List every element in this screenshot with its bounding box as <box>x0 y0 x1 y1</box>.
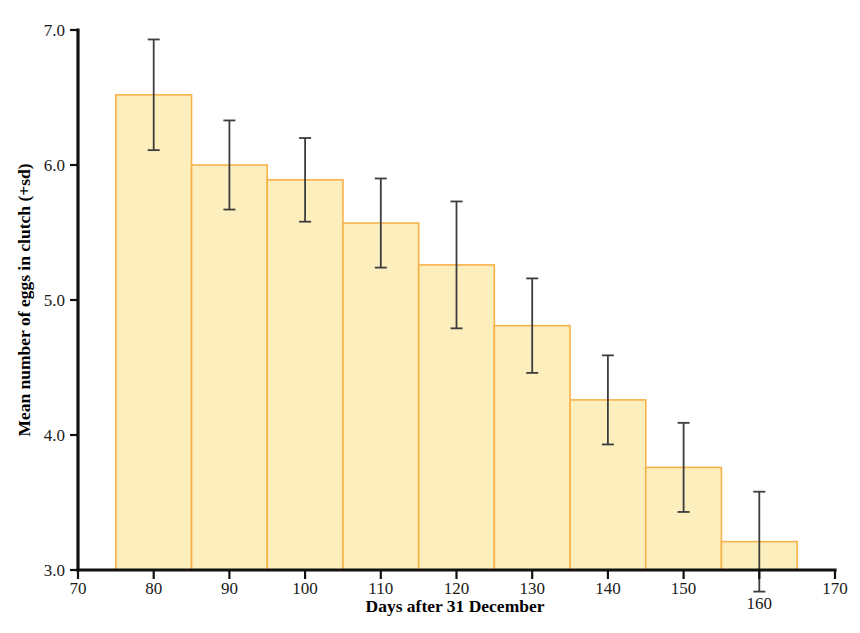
x-tick-label-140: 140 <box>595 579 621 598</box>
bar-110 <box>343 223 419 570</box>
bar-chart-svg: 3.04.05.06.07.07080901001101201301401501… <box>0 0 860 633</box>
x-tick-label-150: 150 <box>671 579 697 598</box>
y-tick-label-3.0: 3.0 <box>44 561 65 580</box>
x-axis-title: Days after 31 December <box>366 596 545 616</box>
x-tick-label-90: 90 <box>221 579 238 598</box>
bar-100 <box>267 180 343 570</box>
x-tick-label-160: 160 <box>747 594 773 613</box>
x-tick-label-80: 80 <box>145 579 162 598</box>
bar-90 <box>192 165 268 570</box>
y-tick-label-5.0: 5.0 <box>44 291 65 310</box>
y-tick-label-6.0: 6.0 <box>44 156 65 175</box>
y-tick-label-4.0: 4.0 <box>44 426 65 445</box>
bar-80 <box>116 95 192 570</box>
x-tick-label-70: 70 <box>70 579 87 598</box>
chart-container: 3.04.05.06.07.07080901001101201301401501… <box>0 0 860 633</box>
x-tick-label-100: 100 <box>292 579 318 598</box>
y-tick-label-7.0: 7.0 <box>44 21 65 40</box>
bars-group <box>116 95 797 570</box>
x-tick-label-170: 170 <box>822 579 848 598</box>
y-axis-title: Mean number of eggs in clutch (+sd) <box>14 163 34 436</box>
